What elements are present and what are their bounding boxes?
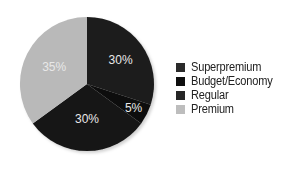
legend-label: Budget/Economy: [191, 74, 273, 88]
legend-item-budget-economy: Budget/Economy: [176, 74, 280, 88]
legend-item-premium: Premium: [176, 102, 280, 116]
slice-percent-label: 30%: [75, 112, 99, 126]
slice-percent-label: 5%: [125, 101, 143, 115]
pie-chart: 30%5%30%35%: [0, 0, 170, 170]
legend-swatch-regular: [176, 91, 185, 100]
legend-swatch-superpremium: [176, 63, 185, 72]
slice-percent-label: 30%: [109, 53, 133, 67]
chart-legend: Superpremium Budget/Economy Regular Prem…: [176, 60, 280, 116]
legend-item-regular: Regular: [176, 88, 280, 102]
legend-swatch-premium: [176, 105, 185, 114]
slice-percent-label: 35%: [42, 60, 66, 74]
legend-label: Superpremium: [191, 60, 261, 74]
pie-chart-svg: 30%5%30%35%: [0, 0, 170, 170]
legend-label: Premium: [191, 102, 234, 116]
legend-item-superpremium: Superpremium: [176, 60, 280, 74]
legend-swatch-budget-economy: [176, 77, 185, 86]
legend-label: Regular: [191, 88, 228, 102]
